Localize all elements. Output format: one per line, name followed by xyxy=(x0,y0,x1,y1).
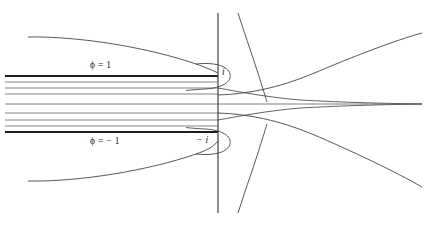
upper-outer-hyperbola-right xyxy=(218,33,422,95)
label-point-i: i xyxy=(222,68,225,78)
label-phi-negative: ϕ = − 1 xyxy=(90,137,120,147)
upper-vertical-arc xyxy=(238,13,267,102)
upper-inner-hyperbola-right xyxy=(218,88,422,104)
upper-outer-arc-left xyxy=(28,37,218,73)
lower-outer-hyperbola-right xyxy=(218,113,422,187)
lower-vertical-arc xyxy=(238,124,267,213)
lower-outer-arc-left xyxy=(28,141,218,181)
figure-canvas: ϕ = 1 ϕ = − 1 i − i xyxy=(0,0,426,226)
label-phi-positive: ϕ = 1 xyxy=(90,61,111,71)
label-point-minus-i: − i xyxy=(196,136,208,146)
lower-inner-hyperbola-right xyxy=(218,104,422,120)
conformal-map-svg xyxy=(0,0,426,226)
